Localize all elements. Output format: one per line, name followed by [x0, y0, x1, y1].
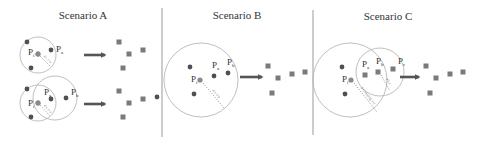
output-point-square [303, 70, 308, 75]
output-point-square [117, 89, 122, 94]
output-point-square [448, 72, 453, 77]
point-label-subscript: b [76, 93, 79, 98]
query-point-pi [35, 51, 40, 56]
aggregated-point-square [376, 70, 381, 75]
distance-line [354, 83, 377, 112]
data-point-dot [25, 87, 30, 92]
aggregated-point-square [391, 67, 396, 72]
scenarios-layer: Scenario Ad i, i+aPiPad i, i+aPiPaPbScen… [20, 9, 466, 121]
output-point-square [290, 72, 295, 77]
data-point-dot [25, 40, 30, 45]
output-point-square [121, 115, 126, 120]
output-point-square [141, 48, 146, 53]
data-point-dot [64, 96, 69, 101]
point-label-subscript: i [33, 53, 35, 58]
scenario-b-panel: Scenario Bd i, i+bPiPaPb [164, 9, 308, 117]
scenario-title: Scenario A [59, 9, 108, 21]
point-label-pa: Pa [212, 60, 220, 71]
unmerged-point-dot [155, 95, 160, 100]
scenario-diagram: Scenario Ad i, i+aPiPad i, i+aPiPaPbScen… [0, 0, 485, 143]
distance-label: d i,missing, i+c [359, 86, 377, 106]
output-point-square [276, 76, 281, 81]
scenario-title: Scenario B [213, 9, 262, 21]
point-label-pi: Pi [28, 98, 35, 109]
point-label-pa: Pa [44, 87, 52, 98]
output-point-square [461, 70, 466, 75]
output-point-square [434, 76, 439, 81]
output-point-square [127, 52, 132, 57]
point-label-pb: Pb [71, 87, 79, 98]
point-label-subscript: c [403, 62, 406, 67]
data-point-dot [192, 92, 197, 97]
output-point-square [117, 40, 122, 45]
point-label-subscript: a [367, 65, 370, 70]
cluster-row-1: d i,missing, i+cd b,cPiPaPbPc [313, 43, 466, 117]
point-label-pi: Pi [28, 47, 35, 58]
point-label-pa: Pa [56, 44, 64, 55]
point-label-pi: Pi [191, 74, 198, 85]
query-point-pi [348, 77, 353, 82]
data-point-dot [29, 115, 34, 120]
cluster-row-1: d i, i+bPiPaPb [164, 43, 308, 117]
data-point-dot [340, 65, 345, 70]
point-label-pb: Pb [227, 57, 235, 68]
cluster-row-1: d i, i+aPiPa [20, 37, 146, 73]
data-point-dot [212, 74, 217, 79]
output-point-square [424, 64, 429, 69]
point-label-pa: Pa [362, 59, 370, 70]
output-point-square [141, 97, 146, 102]
aggregated-point-square [363, 73, 368, 78]
point-label-pb: Pb [376, 56, 384, 67]
cluster-row-2: d i, i+aPiPaPb [20, 76, 159, 121]
output-point-square [428, 91, 433, 96]
output-point-square [127, 101, 132, 106]
output-point-square [270, 91, 275, 96]
data-point-dot [188, 65, 193, 70]
scenario-a-panel: Scenario Ad i, i+aPiPad i, i+aPiPaPb [20, 9, 159, 121]
query-point-pi [35, 100, 40, 105]
point-label-subscript: a [61, 50, 64, 55]
point-label-subscript: a [217, 66, 220, 71]
data-point-dot [343, 92, 348, 97]
point-label-pc: Pc [398, 56, 406, 67]
output-point-square [121, 66, 126, 71]
data-point-dot [29, 66, 34, 71]
point-label-pi: Pi [342, 74, 349, 85]
scenario-title: Scenario C [364, 10, 413, 22]
output-point-square [266, 64, 271, 69]
data-point-dot [49, 48, 54, 53]
data-point-dot [226, 71, 231, 76]
query-point-pi [197, 77, 202, 82]
distance-label: d i, i+b [211, 89, 221, 100]
scenario-c-panel: Scenario Cd i,missing, i+cd b,cPiPaPbPc [313, 10, 466, 117]
